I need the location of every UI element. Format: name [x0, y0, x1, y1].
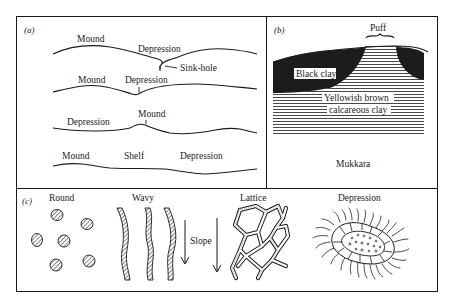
profile-4: Mound Shelf Depression	[53, 151, 257, 174]
black-clay-label: Black clay	[296, 69, 337, 79]
profile-1-depression-label: Depression	[138, 44, 181, 54]
panel-a-label: (a)	[24, 25, 35, 35]
slope-label: Slope	[190, 236, 212, 246]
mukkara-caption: Mukkara	[336, 159, 371, 169]
puff-label: Puff	[370, 23, 387, 33]
calcareous-clay-label-line1: Yellowish brown	[324, 93, 389, 103]
panel-b-label: (b)	[274, 25, 285, 35]
pattern-wavy: Wavy	[117, 193, 176, 280]
sink-hole-label: Sink-hole	[180, 63, 217, 73]
gilgai-figure: (a) Mound Depression Sink-hole Mound Dep…	[0, 0, 452, 308]
pattern-round: Round	[32, 193, 96, 271]
profile-2-mound-label: Mound	[78, 75, 106, 85]
profile-1-mound-label: Mound	[77, 34, 105, 44]
panel-b: (b) Puff Black clay Yellowish brown calc…	[273, 23, 428, 169]
profile-4-shelf-label: Shelf	[124, 151, 145, 161]
profile-2-depression-label: Depression	[125, 75, 168, 85]
panel-a: (a) Mound Depression Sink-hole Mound Dep…	[24, 25, 257, 174]
wavy-label: Wavy	[132, 193, 154, 203]
panel-c-label: (c)	[22, 196, 32, 206]
profile-2: Mound Depression	[53, 75, 257, 95]
lattice-label: Lattice	[240, 193, 266, 203]
profile-1: Mound Depression Sink-hole	[53, 34, 257, 73]
profile-3: Depression Mound	[53, 109, 257, 134]
calcareous-clay-label-line2: calcareous clay	[329, 105, 388, 115]
profile-3-depression-label: Depression	[67, 117, 110, 127]
pattern-depression: Depression	[313, 193, 409, 279]
profile-3-mound-label: Mound	[138, 109, 166, 119]
round-label: Round	[49, 193, 75, 203]
profile-4-mound-label: Mound	[62, 151, 90, 161]
panel-c: (c) Round Wavy S	[22, 193, 409, 280]
slope-indicator: Slope	[181, 218, 221, 272]
depression-pattern-label: Depression	[338, 193, 381, 203]
profile-4-depression-label: Depression	[180, 151, 223, 161]
pattern-lattice: Lattice	[232, 193, 288, 278]
